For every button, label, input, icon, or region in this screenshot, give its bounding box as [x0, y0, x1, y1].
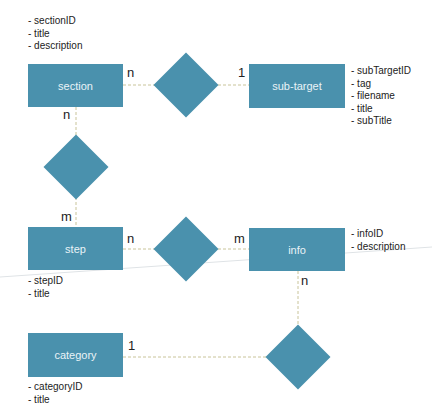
- cardinality-category-right: 1: [128, 339, 135, 352]
- entity-step: step: [28, 227, 123, 270]
- cardinality-section-bottom: n: [63, 108, 70, 121]
- attribute: - tag: [351, 78, 411, 91]
- entity-category: category: [28, 333, 123, 377]
- entity-label: category: [54, 349, 96, 361]
- cardinality-info-left: m: [234, 232, 245, 245]
- attribute: - title: [28, 288, 63, 301]
- attribute: - sectionID: [28, 15, 82, 28]
- section-attributes: - sectionID - title - description: [28, 15, 82, 53]
- attribute: - description: [351, 241, 405, 254]
- attribute: - title: [351, 103, 411, 116]
- cardinality-subtarget-left: 1: [238, 66, 245, 79]
- attribute: - infoID: [351, 228, 405, 241]
- cardinality-step-top: m: [61, 210, 72, 223]
- entity-info: info: [249, 228, 345, 271]
- entity-sub-target: sub-target: [249, 64, 345, 108]
- attribute: - categoryID: [28, 381, 82, 394]
- attribute: - subTitle: [351, 115, 411, 128]
- sub-target-attributes: - subTargetID - tag - filename - title -…: [351, 65, 411, 128]
- cardinality-info-bottom: n: [301, 274, 308, 287]
- entity-label: step: [65, 243, 86, 255]
- attribute: - description: [28, 40, 82, 53]
- attribute: - subTargetID: [351, 65, 411, 78]
- cardinality-step-right: n: [127, 232, 134, 245]
- entity-label: info: [288, 244, 306, 256]
- attribute: - title: [28, 28, 82, 41]
- er-diagram: section sub-target step info category - …: [0, 0, 432, 420]
- attribute: - stepID: [28, 275, 63, 288]
- info-attributes: - infoID - description: [351, 228, 405, 253]
- category-attributes: - categoryID - title: [28, 381, 82, 406]
- entity-label: sub-target: [272, 80, 322, 92]
- attribute: - filename: [351, 90, 411, 103]
- entity-label: section: [58, 80, 93, 92]
- step-attributes: - stepID - title: [28, 275, 63, 300]
- attribute: - title: [28, 394, 82, 407]
- cardinality-section-right: n: [127, 66, 134, 79]
- entity-section: section: [28, 64, 123, 107]
